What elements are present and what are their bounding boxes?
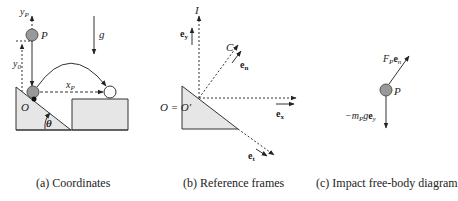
particle-p-initial (26, 29, 38, 41)
panel-c-free-body: FPen P −mPgey (345, 53, 409, 128)
panel-b-reference-frames: I ey C en O = O′ ex et (160, 4, 296, 163)
svg-text:C: C (226, 41, 234, 53)
svg-text:en: en (240, 59, 248, 72)
particle-p-landing (104, 86, 116, 98)
ground-step (72, 99, 128, 130)
svg-text:I: I (194, 4, 200, 16)
svg-text:O = O′: O = O′ (160, 101, 192, 113)
panel-a-coordinates: yP P g y0 xP O θ (12, 6, 128, 130)
svg-text:yP: yP (19, 6, 29, 19)
svg-text:FPen: FPen (382, 53, 402, 66)
caption-c: (c) Impact free-body diagram (316, 176, 458, 191)
tangent-axis (238, 129, 274, 155)
svg-text:y0: y0 (12, 58, 21, 71)
caption-b: (b) Reference frames (183, 176, 284, 191)
svg-text:O: O (21, 101, 29, 113)
svg-text:g: g (99, 28, 105, 40)
particle-p-impact (27, 86, 39, 98)
caption-a: (a) Coordinates (36, 176, 110, 191)
svg-text:P: P (40, 29, 48, 41)
particle-p (380, 84, 392, 96)
svg-text:ey: ey (180, 28, 188, 41)
svg-text:θ: θ (46, 117, 52, 129)
svg-text:−mPgey: −mPgey (345, 110, 377, 123)
et-vector (256, 149, 267, 156)
svg-text:ex: ex (276, 108, 284, 121)
svg-text:et: et (248, 150, 255, 163)
svg-text:xP: xP (65, 79, 75, 92)
svg-text:P: P (393, 85, 401, 97)
